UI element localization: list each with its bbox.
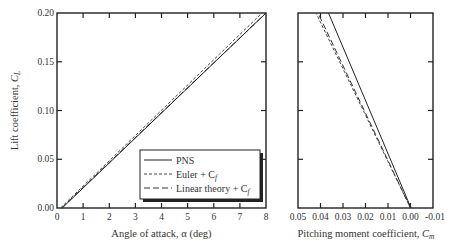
left-y-tick-labels: 0.00 0.05 0.10 0.15 0.20 <box>37 8 54 213</box>
x-tick-label: 0.01 <box>380 212 397 222</box>
y-tick-label: 0.20 <box>37 8 54 18</box>
series-pns <box>329 13 412 208</box>
x-tick-label: 0.00 <box>402 212 419 222</box>
x-tick-label: 6 <box>211 212 216 222</box>
x-axis-title-right: Pitching moment coefficient, Cm <box>297 228 435 241</box>
x-tick-label: 3 <box>133 212 138 222</box>
x-tick-label: 0.05 <box>290 212 307 222</box>
right-series <box>316 13 411 208</box>
x-tick-label: -0.01 <box>425 212 445 222</box>
right-panel: 0.05 0.04 0.03 0.02 0.01 0.00 -0.01 Pitc… <box>290 13 445 241</box>
left-x-tick-labels: 0 1 2 3 4 5 6 7 8 <box>55 212 269 222</box>
x-tick-label: 8 <box>264 212 269 222</box>
y-tick-label: 0.15 <box>37 57 54 67</box>
x-tick-label: 0 <box>55 212 60 222</box>
x-axis-title: Angle of attack, α (deg) <box>111 228 212 240</box>
x-tick-label: 2 <box>107 212 112 222</box>
left-panel: 0 1 2 3 4 5 6 7 8 0.00 0.05 0.10 0.15 0.… <box>9 8 269 240</box>
right-plot-frame <box>298 13 433 208</box>
y-tick-label: 0.00 <box>37 203 54 213</box>
x-tick-label: 4 <box>159 212 164 222</box>
right-y-ticks <box>298 62 433 160</box>
y-tick-label: 0.10 <box>37 106 54 116</box>
right-x-tick-labels: 0.05 0.04 0.03 0.02 0.01 0.00 -0.01 <box>290 212 445 222</box>
x-tick-label: 0.03 <box>335 212 352 222</box>
y-tick-label: 0.05 <box>37 154 54 164</box>
x-tick-label: 0.04 <box>312 212 329 222</box>
x-tick-label: 0.02 <box>357 212 374 222</box>
chart-figure: 0 1 2 3 4 5 6 7 8 0.00 0.05 0.10 0.15 0.… <box>0 0 458 246</box>
y-axis-title: Lift coefficient, CL <box>9 71 22 151</box>
x-tick-label: 1 <box>81 212 86 222</box>
legend: PNS Euler + Cf Linear theory + Cf <box>140 150 263 202</box>
legend-label-pns: PNS <box>176 155 194 166</box>
x-tick-label: 7 <box>238 212 243 222</box>
series-euler <box>316 13 411 208</box>
x-tick-label: 5 <box>185 212 190 222</box>
